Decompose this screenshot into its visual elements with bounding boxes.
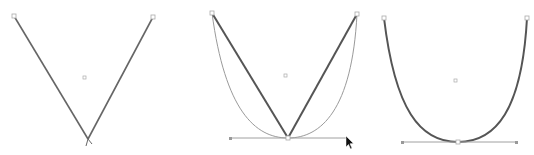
anchor-point-top-left[interactable]: [12, 14, 16, 18]
center-point: [284, 74, 287, 77]
anchor-point-bottom[interactable]: [286, 136, 290, 140]
path-segment-left[interactable]: [212, 13, 288, 138]
center-point: [83, 76, 86, 79]
canvas: [0, 0, 534, 155]
anchor-point-top-right[interactable]: [151, 15, 155, 19]
path-segment-right[interactable]: [288, 14, 357, 138]
panel-corner-v: [12, 14, 155, 146]
arrow-pointer-icon: [346, 136, 354, 149]
direction-handle-right[interactable]: [515, 141, 518, 144]
anchor-point-top-left[interactable]: [210, 11, 214, 15]
smooth-curve[interactable]: [384, 18, 527, 142]
curve-preview: [212, 13, 357, 138]
anchor-point-bottom[interactable]: [456, 140, 460, 144]
direction-handle-left[interactable]: [401, 141, 404, 144]
panel-converting: [210, 11, 359, 149]
pen-convert-cursor-icon: [86, 139, 92, 146]
anchor-point-top-right[interactable]: [355, 12, 359, 16]
anchor-point-top-right[interactable]: [525, 16, 529, 20]
anchor-point-top-left[interactable]: [382, 16, 386, 20]
path-segment-right[interactable]: [88, 17, 153, 139]
path-segment-left[interactable]: [14, 16, 88, 139]
direction-handle-left[interactable]: [229, 137, 232, 140]
panel-smooth-u: [382, 16, 529, 144]
center-point: [454, 79, 457, 82]
